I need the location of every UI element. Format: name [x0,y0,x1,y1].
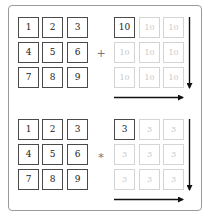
left-matrix-cell: 3 [67,17,88,38]
left-matrix-cell: 7 [18,169,39,190]
left-matrix-cell: 8 [42,169,63,190]
broadcast-cell: 10 [163,67,184,88]
left-matrix-cell: 9 [67,169,88,190]
broadcast-cell: 3 [139,119,160,140]
broadcast-cell: 3 [114,144,135,165]
broadcast-cell: 10 [114,67,135,88]
left-matrix-cell: 6 [67,42,88,63]
left-matrix-cell: 5 [42,144,63,165]
broadcast-cell: 10 [163,17,184,38]
broadcast-cell: 3 [163,119,184,140]
left-matrix-cell: 6 [67,144,88,165]
broadcast-cell: 3 [163,169,184,190]
broadcast-cell: 3 [139,144,160,165]
broadcast-cell: 10 [139,67,160,88]
left-matrix-cell: 1 [18,119,39,140]
left-matrix-cell: 8 [42,67,63,88]
broadcast-cell: 10 [139,17,160,38]
left-matrix-cell: 5 [42,42,63,63]
plus-operator: + [96,48,105,59]
broadcast-cell: 3 [114,169,135,190]
broadcast-cell: 10 [139,42,160,63]
scalar-cell: 10 [114,17,135,38]
multiply-operator: * [98,152,104,163]
broadcast-cell: 3 [163,144,184,165]
left-matrix-cell: 7 [18,67,39,88]
left-matrix-cell: 9 [67,67,88,88]
broadcast-cell: 3 [139,169,160,190]
left-matrix-cell: 3 [67,119,88,140]
broadcast-cell: 10 [114,42,135,63]
left-matrix-cell: 2 [42,119,63,140]
left-matrix-cell: 4 [18,42,39,63]
broadcast-cell: 10 [163,42,184,63]
left-matrix-cell: 1 [18,17,39,38]
scalar-cell: 3 [114,119,135,140]
left-matrix-cell: 2 [42,17,63,38]
left-matrix-cell: 4 [18,144,39,165]
